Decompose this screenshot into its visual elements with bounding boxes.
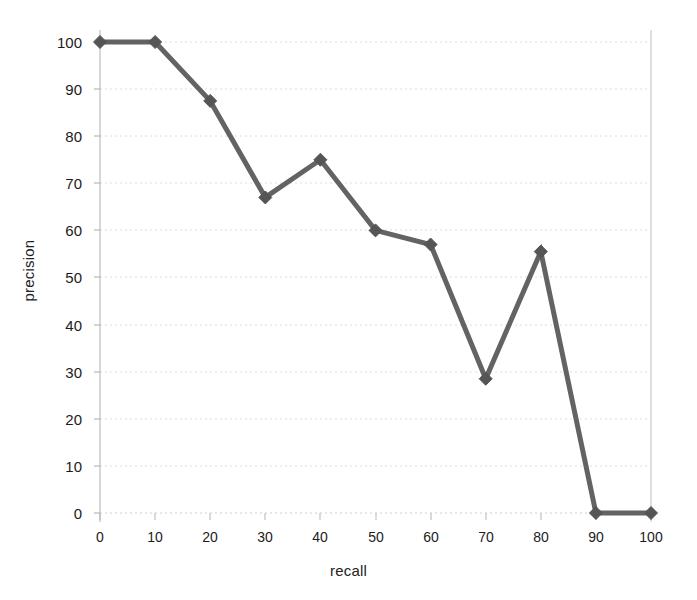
xtick-label-80: 80 bbox=[521, 530, 561, 544]
data-point-marker bbox=[589, 507, 602, 520]
xtick-label-30: 30 bbox=[245, 530, 285, 544]
axis-spines bbox=[100, 30, 651, 522]
xtick-label-60: 60 bbox=[411, 530, 451, 544]
xtick-label-100: 100 bbox=[631, 530, 671, 544]
y-axis-title: precision bbox=[20, 211, 37, 331]
ytick-label-40: 40 bbox=[38, 318, 82, 333]
xtick-label-10: 10 bbox=[135, 530, 175, 544]
ytick-label-20: 20 bbox=[38, 412, 82, 427]
ytick-label-80: 80 bbox=[38, 129, 82, 144]
horizontal-gridlines bbox=[100, 42, 651, 513]
plot-canvas bbox=[0, 0, 697, 600]
xtick-label-70: 70 bbox=[466, 530, 506, 544]
ytick-label-30: 30 bbox=[38, 365, 82, 380]
ytick-label-60: 60 bbox=[38, 223, 82, 238]
data-point-marker bbox=[94, 36, 107, 49]
xtick-label-40: 40 bbox=[300, 530, 340, 544]
x-axis-title: recall bbox=[0, 562, 697, 579]
ytick-label-90: 90 bbox=[38, 82, 82, 97]
xtick-label-90: 90 bbox=[576, 530, 616, 544]
ytick-label-70: 70 bbox=[38, 176, 82, 191]
ytick-label-50: 50 bbox=[38, 270, 82, 285]
data-point-marker bbox=[645, 507, 658, 520]
ytick-label-10: 10 bbox=[38, 459, 82, 474]
xtick-label-0: 0 bbox=[80, 530, 120, 544]
ytick-label-100: 100 bbox=[38, 35, 82, 50]
xtick-label-50: 50 bbox=[356, 530, 396, 544]
xtick-label-20: 20 bbox=[190, 530, 230, 544]
y-axis-tick-marks bbox=[94, 42, 100, 513]
ytick-label-0: 0 bbox=[38, 506, 82, 521]
precision-recall-chart: 100 90 80 70 60 50 40 30 20 10 0 0 10 20… bbox=[0, 0, 697, 600]
x-axis-tick-marks bbox=[100, 513, 651, 520]
